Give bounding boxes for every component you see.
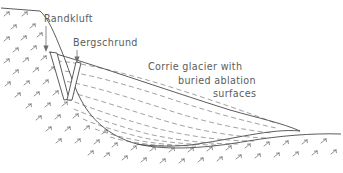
randkluft-leader [43,26,48,52]
hatch-mark [23,58,28,62]
hatch-mark [321,139,326,143]
hatch-mark [84,126,89,130]
hatch-mark [188,148,193,152]
hatch-mark [62,102,67,106]
hatch-mark [26,104,31,108]
hatch-mark [94,140,99,144]
corrie-glacier-label-line3: surfaces [213,88,256,99]
hatch-mark [104,153,109,157]
hatch-mark [198,158,203,162]
hatch-mark [141,158,146,162]
hatch-mark [15,93,20,97]
bergschrund-label: Bergschrund [73,37,138,48]
hatch-mark [13,70,18,74]
diagram-canvas: Randkluft Bergschrund Corrie glacier wit… [0,0,343,173]
hatch-mark [226,146,231,150]
hatch-mark [24,81,29,85]
hatch-mark [65,127,70,131]
hatch-mark [34,92,39,96]
hatch-mark [4,12,9,16]
hatch-mark [4,59,9,63]
hatch-mark [331,150,336,154]
corrie-glacier-label-line1: Corrie glacier with [148,61,242,72]
hatch-mark [75,139,80,143]
hatch-mark [31,46,36,50]
hatch-mark [179,159,184,163]
hatch-mark [150,147,155,151]
corrie-glacier-diagram: Randkluft Bergschrund Corrie glacier wit… [0,0,343,173]
hatch-mark [43,80,48,84]
hatch-mark [56,139,61,143]
hatch-mark [160,159,165,163]
hatch-mark [283,141,288,145]
hatch-mark [217,157,222,161]
corrie-glacier-label-line2: buried ablation [178,75,256,86]
hatch-mark [46,127,51,131]
hatch-mark [53,91,58,95]
hatch-mark [274,153,279,157]
hatch-mark [36,116,41,120]
hatch-mark [112,143,117,147]
hatch-mark [88,151,93,155]
hatch-mark [264,142,269,146]
hatch-mark [302,140,307,144]
hatch-mark [293,152,298,156]
hatch-mark [37,33,42,37]
hatch-mark [55,115,60,119]
hatch-mark [5,82,10,86]
randkluft-leader-arrowhead [43,46,48,52]
hatch-mark [73,114,78,118]
hatch-mark [45,103,50,107]
hatch-mark [33,68,38,72]
hatch-mark [22,12,27,16]
hatch-mark [41,56,46,60]
hatch-mark [131,146,136,150]
hatch-mark [207,147,212,151]
hatch-mark [236,155,241,159]
hatch-mark [4,37,9,41]
hatch-mark [13,48,18,52]
hatch-mark [21,36,26,40]
hatch-mark [169,148,174,152]
hatch-mark [11,25,16,29]
hatch-mark [245,144,250,148]
hatch-mark [255,154,260,158]
hatch-mark [312,151,317,155]
randkluft-label: Randkluft [44,13,93,24]
hatch-mark [30,24,35,28]
hatch-mark [49,67,54,71]
hatch-mark [122,156,127,160]
